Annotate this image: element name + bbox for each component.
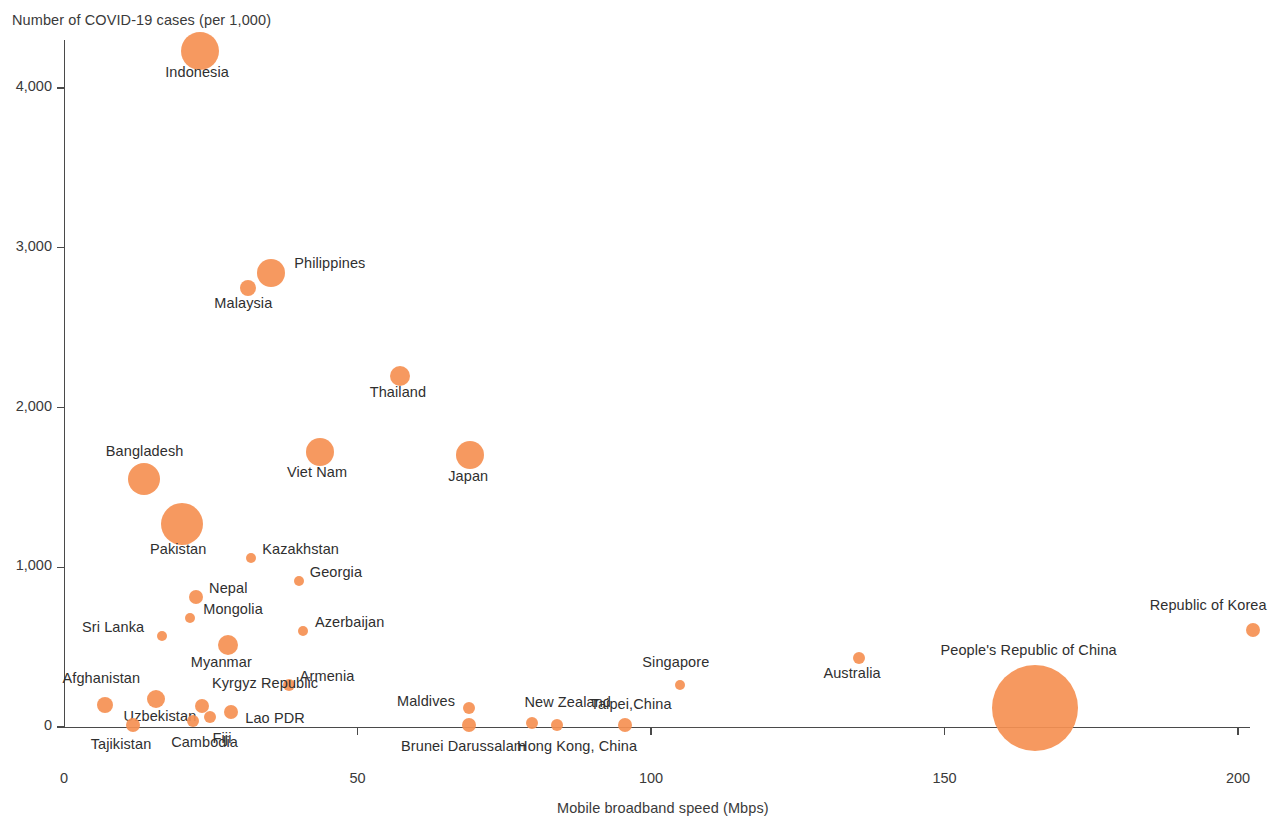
data-point-label: Azerbaijan	[315, 614, 385, 630]
x-axis-tick	[1237, 727, 1238, 735]
data-point-bubble[interactable]	[992, 665, 1078, 751]
data-point-label: Pakistan	[150, 541, 206, 557]
data-point-label: Fiji	[213, 730, 232, 746]
y-axis-tick-label: 4,000	[0, 78, 52, 94]
data-point-bubble[interactable]	[456, 441, 484, 469]
data-point-bubble[interactable]	[185, 613, 195, 623]
data-point-bubble[interactable]	[618, 718, 632, 732]
data-point-label: Bangladesh	[106, 443, 184, 459]
data-point-label: Republic of Korea	[1150, 597, 1267, 613]
y-axis-tick-label: 3,000	[0, 238, 52, 254]
data-point-label: Sri Lanka	[82, 619, 144, 635]
y-axis-tick-label: 2,000	[0, 398, 52, 414]
x-axis-tick-label: 150	[915, 770, 975, 786]
data-point-label: Viet Nam	[287, 464, 347, 480]
y-axis-tick	[57, 407, 65, 408]
y-axis-line	[64, 40, 65, 727]
data-point-bubble[interactable]	[1246, 623, 1260, 637]
data-point-label: Japan	[448, 468, 488, 484]
data-point-bubble[interactable]	[306, 438, 334, 466]
data-point-bubble[interactable]	[257, 259, 285, 287]
x-axis-tick	[357, 727, 358, 735]
data-point-bubble[interactable]	[298, 626, 308, 636]
x-axis-title: Mobile broadband speed (Mbps)	[557, 800, 769, 816]
data-point-bubble[interactable]	[462, 718, 476, 732]
data-point-label: Australia	[823, 665, 880, 681]
y-axis-tick	[57, 567, 65, 568]
data-point-bubble[interactable]	[246, 553, 256, 563]
x-axis-tick	[650, 727, 651, 735]
data-point-bubble[interactable]	[147, 690, 165, 708]
data-point-label: Philippines	[294, 255, 365, 271]
data-point-label: Myanmar	[191, 654, 252, 670]
data-point-bubble[interactable]	[126, 718, 140, 732]
data-point-label: Singapore	[642, 654, 709, 670]
data-point-label: Brunei Darussalam	[401, 738, 526, 754]
y-axis-tick	[57, 726, 65, 727]
data-point-label: Afghanistan	[63, 670, 141, 686]
data-point-label: Nepal	[209, 580, 247, 596]
data-point-bubble[interactable]	[853, 652, 865, 664]
data-point-bubble[interactable]	[224, 705, 238, 719]
x-axis-tick-label: 50	[328, 770, 388, 786]
data-point-label: Kazakhstan	[262, 541, 339, 557]
y-axis-tick-label: 1,000	[0, 557, 52, 573]
data-point-bubble[interactable]	[128, 463, 160, 495]
data-point-bubble[interactable]	[675, 680, 685, 690]
y-axis-title: Number of COVID-19 cases (per 1,000)	[12, 12, 271, 28]
data-point-label: Kyrgyz Republic	[212, 675, 318, 691]
y-axis-tick	[57, 247, 65, 248]
data-point-bubble[interactable]	[187, 715, 199, 727]
data-point-bubble[interactable]	[240, 280, 256, 296]
data-point-label: Mongolia	[203, 601, 263, 617]
data-point-label: Georgia	[310, 564, 362, 580]
data-point-label: Malaysia	[214, 295, 272, 311]
data-point-bubble[interactable]	[189, 590, 203, 604]
data-point-bubble[interactable]	[157, 631, 167, 641]
data-point-label: Taipei,China	[591, 696, 672, 712]
data-point-label: Indonesia	[165, 64, 229, 80]
data-point-bubble[interactable]	[294, 576, 304, 586]
data-point-bubble[interactable]	[161, 503, 203, 545]
data-point-label: Maldives	[397, 693, 455, 709]
data-point-bubble[interactable]	[463, 702, 475, 714]
data-point-label: Lao PDR	[245, 710, 305, 726]
data-point-bubble[interactable]	[390, 366, 410, 386]
y-axis-tick-label: 0	[0, 717, 52, 733]
x-axis-tick	[944, 727, 945, 735]
x-axis-tick-label: 0	[34, 770, 94, 786]
data-point-bubble[interactable]	[218, 635, 238, 655]
bubble-chart: Number of COVID-19 cases (per 1,000) 01,…	[0, 0, 1273, 823]
data-point-bubble[interactable]	[204, 711, 216, 723]
data-point-bubble[interactable]	[551, 719, 563, 731]
data-point-bubble[interactable]	[97, 697, 113, 713]
x-axis-tick-label: 200	[1208, 770, 1268, 786]
y-axis-tick	[57, 87, 65, 88]
data-point-label: People's Republic of China	[940, 642, 1116, 658]
data-point-label: Hong Kong, China	[517, 738, 637, 754]
x-axis-tick-label: 100	[621, 770, 681, 786]
data-point-label: Thailand	[370, 384, 426, 400]
data-point-label: Tajikistan	[91, 736, 152, 752]
